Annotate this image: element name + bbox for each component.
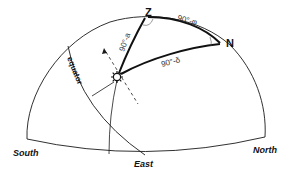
south-label: South xyxy=(13,148,39,158)
declination-line xyxy=(92,82,114,96)
equator-label: equator xyxy=(65,55,84,86)
sun-path-dashed xyxy=(106,52,138,104)
horizon-line xyxy=(27,137,265,152)
celestial-dome xyxy=(27,17,265,139)
arc-label-zenith-pole: 90°-φ xyxy=(176,13,198,27)
vertical-circle-line xyxy=(109,80,117,154)
arc-label-zenith-sun: 90°-a xyxy=(117,31,132,53)
east-label: East xyxy=(134,159,154,169)
sun-icon xyxy=(111,71,123,83)
north-label: North xyxy=(253,145,277,155)
north-pole-label: N xyxy=(226,37,234,49)
zenith-label: Z xyxy=(145,6,152,18)
celestial-sphere-diagram: Z N 90°-φ 90°-a 90°-δ equator South East… xyxy=(0,0,290,172)
arrow-head-icon xyxy=(102,48,107,54)
equator-line xyxy=(68,46,145,155)
